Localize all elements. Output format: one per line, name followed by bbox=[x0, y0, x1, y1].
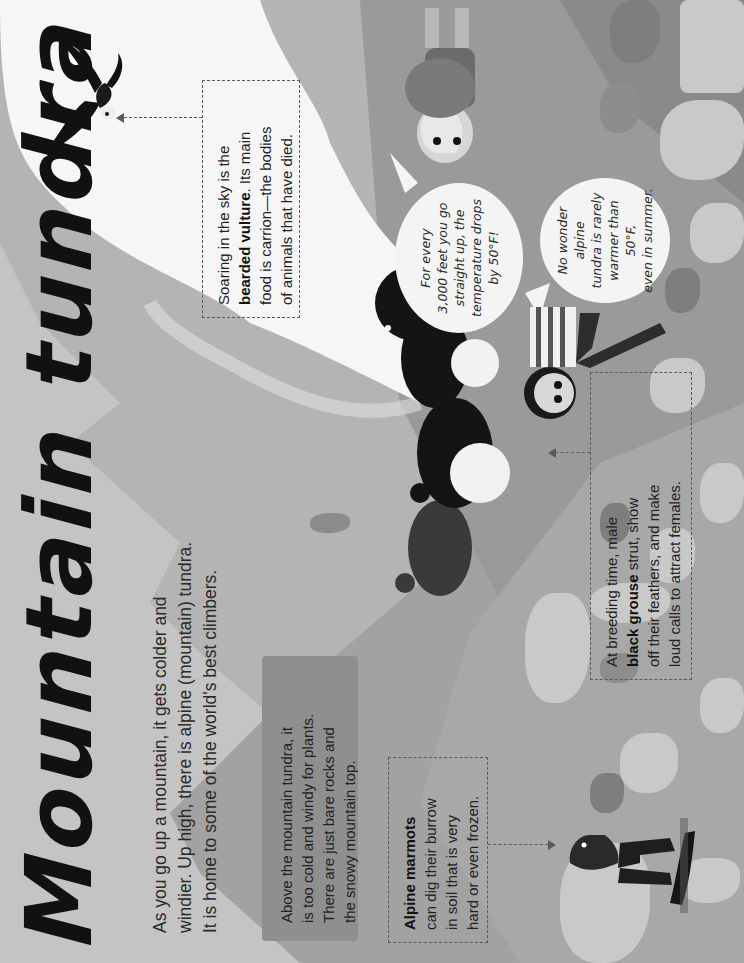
child-illustration bbox=[520, 303, 700, 423]
info-line: Above the mountain tundra, it bbox=[276, 674, 297, 923]
intro-paragraph: As you go up a mountain, it gets colder … bbox=[148, 463, 223, 933]
callout-line: off their feathers, and make bbox=[643, 385, 664, 667]
callout-line: can dig their burrow bbox=[420, 770, 441, 930]
info-line: the snowy mountain top. bbox=[339, 674, 360, 923]
climber-speech-bubble: For every 3,000 feet you go straight up,… bbox=[395, 183, 523, 333]
callout-line: At breeding time, male bbox=[601, 385, 622, 667]
vulture-pointer-line bbox=[124, 117, 202, 118]
bearded-vulture-illustration bbox=[30, 23, 130, 163]
grouse-name: black grouse bbox=[624, 574, 641, 667]
info-line: There are just bare rocks and bbox=[318, 674, 339, 923]
callout-line: bearded vulture. Its main bbox=[234, 93, 255, 305]
callout-line: Soaring in the sky is the bbox=[213, 93, 234, 305]
rock bbox=[525, 593, 590, 703]
vulture-callout: Soaring in the sky is the bearded vultur… bbox=[202, 80, 300, 318]
callout-line: loud calls to attract females. bbox=[664, 385, 685, 667]
marmot-name: Alpine marmots bbox=[399, 770, 420, 930]
vulture-name: bearded vulture bbox=[236, 192, 253, 305]
mountaineer-illustration bbox=[395, 3, 575, 193]
marmot-pointer-line bbox=[488, 844, 548, 845]
callout-line: in soil that is very bbox=[441, 770, 462, 930]
rock bbox=[310, 513, 350, 533]
marmot-callout: Alpine marmots can dig their burrow in s… bbox=[388, 757, 488, 943]
rock bbox=[600, 83, 640, 133]
above-tundra-info-box: Above the mountain tundra, it is too col… bbox=[262, 656, 358, 941]
rock bbox=[660, 100, 744, 180]
large-rock bbox=[680, 0, 744, 93]
arrow-down-icon bbox=[548, 840, 556, 850]
rock bbox=[700, 678, 744, 733]
grouse-pointer-line bbox=[555, 452, 590, 453]
intro-line: It is home to some of the world's best c… bbox=[198, 463, 223, 933]
book-page: Mountain tundra As you go up a mountain,… bbox=[0, 0, 744, 963]
rock bbox=[610, 0, 660, 63]
alpine-marmot-illustration bbox=[560, 813, 710, 923]
rock bbox=[700, 463, 744, 523]
intro-line: As you go up a mountain, it gets colder … bbox=[148, 463, 173, 933]
info-line: is too cold and windy for plants. bbox=[297, 674, 318, 923]
callout-line: black grouse strut, show bbox=[622, 385, 643, 667]
callout-line: food is carrion—the bodies bbox=[255, 93, 276, 305]
callout-line: hard or even frozen. bbox=[462, 770, 483, 930]
rock bbox=[690, 203, 744, 263]
rock bbox=[620, 733, 678, 793]
callout-line: of animals that have died. bbox=[276, 93, 297, 305]
intro-line: windier. Up high, there is alpine (mount… bbox=[173, 463, 198, 933]
rock bbox=[590, 773, 624, 813]
